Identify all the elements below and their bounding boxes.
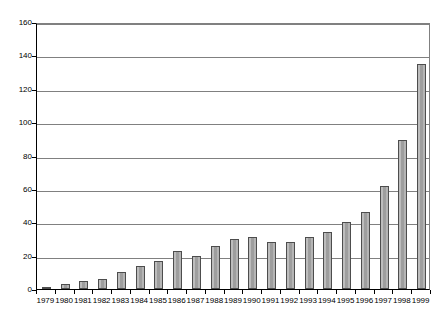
bar-chart: 020406080100120140160 197919801981198219…: [0, 0, 446, 325]
x-tick-label-1986: 1986: [167, 296, 186, 305]
x-tick-mark-2: [74, 290, 75, 294]
x-tick-label-1983: 1983: [111, 296, 130, 305]
bar-1979: [42, 287, 51, 289]
x-tick-mark-12: [261, 290, 262, 294]
x-tick-label-1995: 1995: [336, 296, 355, 305]
x-tick-label-1982: 1982: [92, 296, 111, 305]
y-tick-label-40: 40: [23, 219, 32, 227]
bar-1996: [361, 212, 370, 289]
x-tick-label-1999: 1999: [411, 296, 430, 305]
x-tick-mark-4: [111, 290, 112, 294]
bar-1992: [286, 242, 295, 289]
bar-1993: [305, 237, 314, 289]
x-tick-mark-10: [224, 290, 225, 294]
x-tick-mark-20: [411, 290, 412, 294]
x-tick-label-1990: 1990: [242, 296, 261, 305]
bar-1991: [267, 242, 276, 289]
bar-1998: [398, 140, 407, 289]
bar-1989: [230, 239, 239, 289]
x-tick-mark-3: [92, 290, 93, 294]
bar-1990: [248, 237, 257, 289]
x-tick-mark-17: [355, 290, 356, 294]
bar-1982: [98, 279, 107, 289]
x-tick-mark-9: [205, 290, 206, 294]
x-tick-mark-21: [430, 290, 431, 294]
x-tick-label-1979: 1979: [36, 296, 55, 305]
bars: [37, 24, 429, 289]
bar-1986: [173, 251, 182, 289]
x-tick-label-1996: 1996: [355, 296, 374, 305]
x-tick-mark-11: [242, 290, 243, 294]
bar-1987: [192, 256, 201, 289]
x-axis: 1979198019811982198319841985198619871988…: [36, 296, 430, 312]
bar-1983: [117, 272, 126, 289]
bar-1981: [79, 281, 88, 289]
x-tick-mark-7: [167, 290, 168, 294]
x-tick-label-1984: 1984: [130, 296, 149, 305]
x-tick-label-1998: 1998: [392, 296, 411, 305]
x-tick-mark-19: [392, 290, 393, 294]
y-tick-label-100: 100: [19, 119, 32, 127]
x-tick-label-1993: 1993: [299, 296, 318, 305]
x-tick-mark-8: [186, 290, 187, 294]
x-tick-mark-15: [317, 290, 318, 294]
x-tick-label-1985: 1985: [149, 296, 168, 305]
x-tick-label-1994: 1994: [317, 296, 336, 305]
x-tick-mark-6: [149, 290, 150, 294]
y-axis: 020406080100120140160: [0, 0, 32, 325]
bar-1995: [342, 222, 351, 289]
x-tick-mark-5: [130, 290, 131, 294]
x-tick-label-1997: 1997: [374, 296, 393, 305]
bar-1980: [61, 284, 70, 289]
x-tick-label-1980: 1980: [55, 296, 74, 305]
x-tick-mark-0: [36, 290, 37, 294]
y-tick-label-140: 140: [19, 52, 32, 60]
x-tick-label-1988: 1988: [205, 296, 224, 305]
x-tick-mark-16: [336, 290, 337, 294]
x-tick-label-1992: 1992: [280, 296, 299, 305]
x-tick-label-1987: 1987: [186, 296, 205, 305]
y-tick-label-160: 160: [19, 19, 32, 27]
bar-1984: [136, 266, 145, 289]
x-tick-label-1991: 1991: [261, 296, 280, 305]
x-tick-mark-14: [299, 290, 300, 294]
bar-1985: [154, 261, 163, 289]
y-tick-label-80: 80: [23, 153, 32, 161]
x-tick-label-1989: 1989: [224, 296, 243, 305]
y-tick-label-20: 20: [23, 253, 32, 261]
bar-1997: [380, 186, 389, 289]
bar-1999: [417, 64, 426, 289]
x-tick-label-1981: 1981: [74, 296, 93, 305]
bar-1994: [323, 232, 332, 289]
bar-1988: [211, 246, 220, 289]
plot-area: [36, 23, 430, 290]
x-tick-mark-18: [374, 290, 375, 294]
y-tick-label-120: 120: [19, 86, 32, 94]
x-tick-mark-13: [280, 290, 281, 294]
y-tick-label-60: 60: [23, 186, 32, 194]
x-tick-mark-1: [55, 290, 56, 294]
